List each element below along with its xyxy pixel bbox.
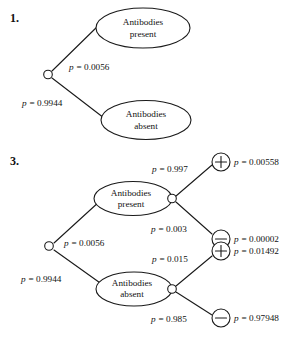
outcome-label-absent-line2-3: absent (120, 289, 144, 299)
chance-node-present-3 (168, 194, 177, 203)
leaf-label-absent-negative: p= 0.97948 (233, 313, 279, 323)
outcome-ellipse-antibodies-absent-1 (101, 101, 191, 140)
p-value: = 0.01492 (242, 246, 280, 256)
p-value: = 0.00002 (242, 234, 280, 244)
leaf-label-present-negative: p= 0.00002 (233, 234, 279, 244)
p-value: = 0.0056 (77, 62, 110, 72)
edge-label-present-probability-3: p= 0.0056 (63, 238, 105, 248)
edge-absent-to-negative (176, 292, 212, 315)
p-value: = 0.003 (159, 224, 188, 234)
p-value: = 0.0056 (72, 238, 105, 248)
outcome-label-present-line2: present (130, 29, 157, 39)
edge-label-absent-positive: p= 0.015 (151, 254, 188, 264)
outcome-label-absent-line1: Antibodies (126, 109, 167, 119)
tree-diagram-3: Antibodies present Antibodies absent (0, 145, 296, 337)
p-symbol: p (150, 224, 156, 234)
edge-label-absent-negative: p= 0.985 (150, 314, 187, 324)
p-symbol: p (233, 246, 239, 256)
p-value: = 0.9944 (30, 98, 63, 108)
p-symbol: p (151, 164, 157, 174)
p-value: = 0.985 (159, 314, 188, 324)
p-value: = 0.97948 (242, 313, 280, 323)
outcome-label-present-line1-3: Antibodies (111, 188, 152, 198)
outcome-label-present-line2-3: present (118, 199, 145, 209)
root-node-1 (44, 70, 53, 79)
root-node-3 (45, 242, 54, 251)
probability-tree-figure-3: 3. Antibodies present Antibodies absent (0, 145, 296, 337)
outcome-label-absent-line2: absent (134, 121, 158, 131)
outcome-label-present-line1: Antibodies (123, 17, 164, 27)
p-symbol: p (150, 314, 156, 324)
p-symbol: p (233, 157, 239, 167)
p-value: = 0.9944 (29, 274, 62, 284)
p-symbol: p (63, 238, 69, 248)
p-symbol: p (68, 62, 74, 72)
edge-label-absent-probability-3: p= 0.9944 (20, 274, 62, 284)
worksheet-page: 1. Antibodies present Antibodies absent … (0, 0, 296, 337)
outcome-ellipse-antibodies-present-1 (96, 8, 190, 48)
edge-root-to-present-3 (54, 201, 100, 243)
edge-label-present-probability-1: p= 0.0056 (68, 62, 110, 72)
probability-tree-figure-1: 1. Antibodies present Antibodies absent … (0, 0, 296, 145)
p-symbol: p (233, 234, 239, 244)
p-symbol: p (21, 98, 27, 108)
leaf-label-present-positive: p= 0.00558 (233, 157, 279, 167)
leaf-label-absent-positive: p= 0.01492 (233, 246, 279, 256)
p-symbol: p (20, 274, 26, 284)
edge-root-to-absent-3 (54, 250, 103, 285)
edge-label-present-positive: p= 0.997 (151, 164, 188, 174)
p-value: = 0.00558 (242, 157, 280, 167)
p-value: = 0.997 (160, 164, 189, 174)
p-symbol: p (233, 313, 239, 323)
chance-node-absent-3 (168, 285, 177, 294)
edge-label-absent-probability-1: p= 0.9944 (21, 98, 63, 108)
p-symbol: p (151, 254, 157, 264)
tree-diagram-1: Antibodies present Antibodies absent p= … (0, 0, 296, 145)
outcome-label-absent-line1-3: Antibodies (112, 278, 153, 288)
p-value: = 0.015 (160, 254, 189, 264)
edge-label-present-negative: p= 0.003 (150, 224, 187, 234)
